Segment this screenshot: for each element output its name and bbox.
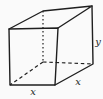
hidden-edge-bottom-back (43, 62, 93, 64)
box-diagram-svg: x x y (0, 0, 103, 99)
hidden-edge-bottom-left (10, 62, 43, 85)
front-face-outline (9, 28, 58, 85)
box-labels: x x y (30, 36, 101, 97)
top-face-outline (9, 6, 92, 29)
box-edges (9, 6, 93, 85)
label-depth: x (75, 76, 81, 87)
box-diagram-figure: x x y (0, 0, 103, 99)
label-front-width: x (30, 86, 36, 97)
label-height: y (94, 36, 101, 47)
